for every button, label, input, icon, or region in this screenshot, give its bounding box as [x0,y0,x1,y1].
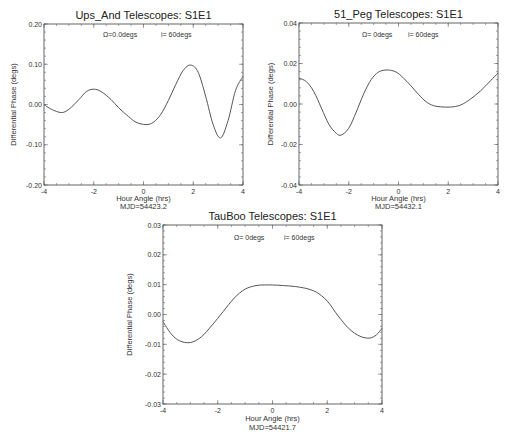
omega-annotation: Ω=0.0degs [103,31,138,39]
x-tick-label: 0 [142,188,146,195]
plot-tauboo: TauBoo Telescopes: S1E1 Ω= 0degs i= 60de… [125,210,384,432]
axis-ticks: -4-2024-0.20-0.100.000.100.20 [26,21,245,196]
x-tick-label: 2 [191,188,195,195]
y-tick-label: -0.04 [281,182,297,189]
x-tick-label: 2 [446,188,450,195]
axis-ticks: -4-2024-0.03-0.02-0.010.000.010.020.03 [145,222,384,415]
x-axis-sublabel: MJD=54432.1 [375,202,422,211]
x-axis-sublabel: MJD=54423.2 [120,202,167,211]
inclination-annotation: i= 60degs [284,234,315,242]
x-tick-label: -4 [41,188,47,195]
y-axis-label: Differential Phase (degs) [125,273,134,356]
x-tick-label: -2 [215,407,221,414]
x-tick-label: -2 [346,188,352,195]
plot-title: Ups_And Telescopes: S1E1 [75,9,211,21]
y-tick-label: -0.10 [26,141,42,148]
axis-ticks: -4-2024-0.04-0.020.000.020.04 [281,20,500,196]
y-tick-label: -0.02 [145,371,161,378]
y-tick-label: 0.00 [147,311,161,318]
y-tick-label: 0.00 [28,101,42,108]
y-axis-label: Differential Phase (degs) [266,62,275,145]
y-tick-label: -0.01 [145,341,161,348]
axes-frame [299,23,498,185]
plot-title: TauBoo Telescopes: S1E1 [208,210,336,222]
x-tick-label: 4 [241,188,245,195]
data-curve [299,70,498,135]
y-tick-label: 0.02 [283,60,297,67]
y-tick-label: 0.10 [28,61,42,68]
y-tick-label: 0.02 [147,251,161,258]
plot-title: 51_Peg Telescopes: S1E1 [334,8,463,20]
x-tick-label: 2 [325,407,329,414]
y-tick-label: -0.02 [281,141,297,148]
x-tick-label: 0 [271,407,275,414]
x-tick-label: 4 [496,188,500,195]
x-tick-label: -4 [160,407,166,414]
axes-frame [163,225,382,404]
y-tick-label: 0.04 [283,20,297,27]
omega-annotation: Ω= 0degs [234,234,265,242]
x-axis-label: Hour Angle (hrs) [245,414,300,423]
data-curve [44,65,243,138]
data-curve [163,285,382,343]
y-tick-label: 0.20 [28,21,42,28]
y-tick-label: 0.03 [147,222,161,229]
x-tick-label: 4 [380,407,384,414]
plot-51-peg: 51_Peg Telescopes: S1E1 Ω= 0degs i= 60de… [266,8,500,211]
plot-ups-and: Ups_And Telescopes: S1E1 Ω=0.0degs i= 60… [9,9,245,211]
y-tick-label: 0.00 [283,101,297,108]
x-axis-sublabel: MJD=54421.7 [249,423,296,432]
inclination-annotation: i= 60degs [161,31,192,39]
y-tick-label: 0.01 [147,281,161,288]
x-tick-label: -4 [296,188,302,195]
y-axis-label: Differential Phase (degs) [9,63,18,146]
inclination-annotation: i= 60degs [408,31,439,39]
y-tick-label: -0.03 [145,401,161,408]
figure-canvas: Ups_And Telescopes: S1E1 Ω=0.0degs i= 60… [0,0,509,440]
x-tick-label: -2 [91,188,97,195]
y-tick-label: -0.20 [26,182,42,189]
omega-annotation: Ω= 0degs [362,31,393,39]
x-tick-label: 0 [397,188,401,195]
